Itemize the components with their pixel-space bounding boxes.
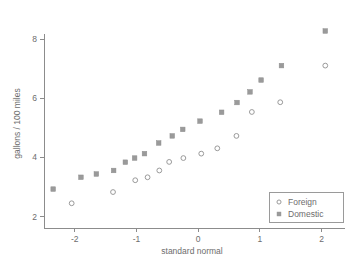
- data-point-domestic: [235, 100, 240, 105]
- x-tick-label: 1: [258, 234, 263, 244]
- data-point-foreign: [199, 151, 204, 156]
- data-point-domestic: [123, 160, 128, 165]
- axis-labels-group: 2468-2-1012standard normalgallons / 100 …: [12, 34, 324, 256]
- y-tick-label: 6: [32, 93, 37, 103]
- data-point-domestic: [132, 156, 137, 161]
- data-point-domestic: [156, 141, 161, 146]
- data-points-group: [51, 29, 328, 206]
- data-point-domestic: [279, 63, 284, 68]
- data-point-foreign: [249, 110, 254, 115]
- x-tick-label: -1: [133, 234, 141, 244]
- x-axis-title: standard normal: [161, 246, 223, 256]
- y-tick-label: 2: [32, 212, 37, 222]
- data-point-domestic: [259, 78, 264, 83]
- data-point-domestic: [180, 127, 185, 132]
- scatter-plot-figure: 2468-2-1012standard normalgallons / 100 …: [0, 0, 352, 266]
- data-point-domestic: [79, 175, 84, 180]
- data-point-domestic: [248, 90, 253, 95]
- x-tick-label: 2: [319, 234, 324, 244]
- data-point-foreign: [215, 146, 220, 151]
- series-domestic: [51, 29, 328, 192]
- x-tick-label: 0: [196, 234, 201, 244]
- data-point-domestic: [94, 172, 99, 177]
- data-point-domestic: [170, 134, 175, 139]
- data-point-foreign: [133, 178, 138, 183]
- data-point-foreign: [69, 201, 74, 206]
- data-point-domestic: [111, 168, 116, 173]
- plot-canvas: 2468-2-1012standard normalgallons / 100 …: [0, 0, 352, 266]
- data-point-foreign: [278, 100, 283, 105]
- data-point-foreign: [145, 175, 150, 180]
- legend-label: Domestic: [288, 209, 324, 219]
- data-point-foreign: [157, 168, 162, 173]
- data-point-domestic: [198, 119, 203, 124]
- data-point-foreign: [111, 190, 116, 195]
- data-point-domestic: [142, 151, 147, 156]
- y-axis-title: gallons / 100 miles: [12, 88, 22, 158]
- legend-label: Foreign: [288, 197, 317, 207]
- x-tick-label: -2: [71, 234, 79, 244]
- y-tick-label: 8: [32, 34, 37, 44]
- data-point-domestic: [51, 187, 56, 192]
- data-point-foreign: [167, 160, 172, 165]
- data-point-domestic: [323, 29, 328, 34]
- legend-marker-domestic: [277, 212, 281, 216]
- data-point-domestic: [219, 110, 224, 115]
- chart-legend[interactable]: ForeignDomestic: [269, 192, 343, 222]
- data-point-foreign: [323, 63, 328, 68]
- data-point-foreign: [181, 156, 186, 161]
- y-tick-label: 4: [32, 152, 37, 162]
- series-foreign: [69, 63, 327, 205]
- data-point-foreign: [234, 134, 239, 139]
